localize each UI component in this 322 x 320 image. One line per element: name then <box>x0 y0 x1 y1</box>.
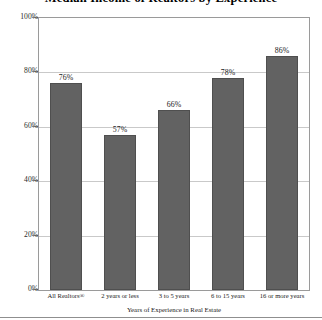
bar-value-label: 57% <box>93 125 147 134</box>
y-tick-label: 100% <box>8 13 38 21</box>
x-tick-label: All Realtors® <box>39 292 93 306</box>
bar-slot: 66% <box>147 18 201 290</box>
footer-divider <box>0 317 322 318</box>
chart-title: Median Income of Realtors by Experience <box>0 0 322 5</box>
bar-slot: 86% <box>255 18 309 290</box>
y-tick-label: 20% <box>8 231 38 239</box>
bar[interactable] <box>158 110 190 290</box>
chart-plot-area: 100%80%60%40%20%0% 76%57%66%78%86% All R… <box>0 6 322 320</box>
bar-value-label: 76% <box>39 73 93 82</box>
bar[interactable] <box>104 135 136 290</box>
y-tick-label: 40% <box>8 176 38 184</box>
bar-slot: 76% <box>39 18 93 290</box>
bar-slot: 78% <box>201 18 255 290</box>
x-axis-title: Years of Experience in Real Estate <box>38 305 310 314</box>
bar[interactable] <box>50 83 82 290</box>
y-tick-label: 0% <box>8 285 38 293</box>
bar-value-label: 66% <box>147 100 201 109</box>
x-tick-label: 16 or more years <box>255 292 309 306</box>
bar[interactable] <box>266 56 298 290</box>
x-tick-label: 2 years or less <box>93 292 147 306</box>
y-tick-label: 80% <box>8 67 38 75</box>
x-tick-label: 3 to 5 years <box>147 292 201 306</box>
x-axis: All Realtors®2 years or less3 to 5 years… <box>39 292 309 306</box>
bar-series: 76%57%66%78%86% <box>39 18 309 290</box>
bar[interactable] <box>212 78 244 290</box>
x-tick-label: 6 to 15 years <box>201 292 255 306</box>
y-tick-label: 60% <box>8 122 38 130</box>
bar-value-label: 86% <box>255 46 309 55</box>
bar-slot: 57% <box>93 18 147 290</box>
bar-value-label: 78% <box>201 68 255 77</box>
y-axis: 100%80%60%40%20%0% <box>0 17 38 291</box>
